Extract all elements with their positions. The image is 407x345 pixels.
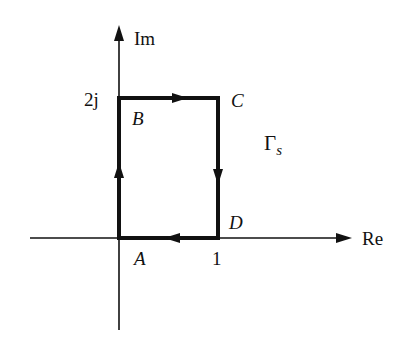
real-axis-arrow-icon <box>336 233 352 243</box>
imag-axis-label: Im <box>134 28 155 49</box>
contour-subscript: s <box>276 142 282 158</box>
arrow-right-icon <box>172 93 188 103</box>
vertex-label-d: D <box>228 212 243 233</box>
arrow-down-icon <box>213 169 223 185</box>
arrow-left-icon <box>164 233 180 243</box>
contour-symbol: Γ <box>264 131 276 155</box>
contour-name-label: Γs <box>264 131 282 158</box>
vertex-label-c: C <box>231 90 244 111</box>
real-tick-label: 1 <box>212 248 222 269</box>
contour-diagram: Im Re 2j 1 A B C D Γs <box>0 0 407 345</box>
vertex-label-a: A <box>132 248 146 269</box>
vertex-label-b: B <box>132 108 144 129</box>
real-axis-label: Re <box>362 228 383 249</box>
arrow-up-icon <box>114 162 124 178</box>
imag-axis-arrow-icon <box>114 25 124 41</box>
imag-tick-label: 2j <box>84 89 99 110</box>
